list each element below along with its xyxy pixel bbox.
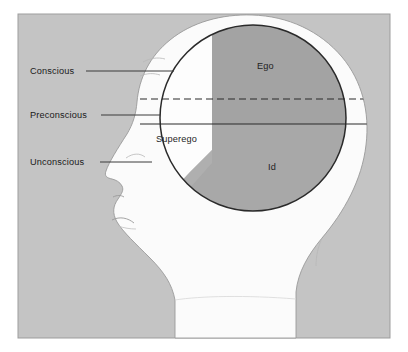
label-preconscious: Preconscious [30,110,87,120]
label-ego: Ego [257,61,274,71]
diagram-canvas: Conscious Preconscious Unconscious Ego S… [0,0,408,352]
label-superego: Superego [156,134,197,144]
label-unconscious: Unconscious [30,157,85,167]
freud-psyche-figure: Conscious Preconscious Unconscious Ego S… [0,0,408,352]
label-id: Id [268,162,276,172]
label-conscious: Conscious [30,66,75,76]
